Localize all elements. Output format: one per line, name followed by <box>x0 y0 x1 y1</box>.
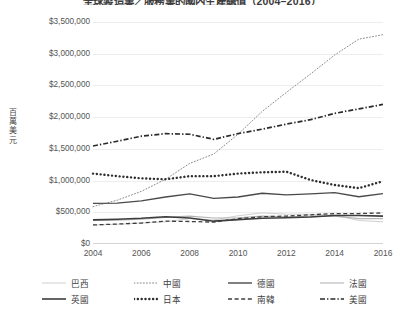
legend-swatch-德國 <box>228 279 252 287</box>
y-tick-label: $3,500,000 <box>14 17 90 26</box>
y-tick-label: $0 <box>14 239 90 248</box>
legend-label: 美國 <box>349 293 367 305</box>
legend-label: 日本 <box>163 293 181 305</box>
y-tick-label: $500,000 <box>14 207 90 216</box>
x-tick-label: 2006 <box>132 248 151 258</box>
x-tick-label: 2010 <box>229 248 248 258</box>
plot-area <box>93 22 383 244</box>
legend-label: 巴西 <box>71 277 89 289</box>
series-line-德國 <box>93 193 383 204</box>
series-line-中國 <box>93 35 383 207</box>
legend-label: 法國 <box>349 277 367 289</box>
legend-swatch-法國 <box>320 279 344 287</box>
x-axis-tick-labels: 2004200620082010201220142016 <box>93 248 383 262</box>
x-tick-label: 2004 <box>84 248 103 258</box>
legend-item-巴西[interactable]: 巴西 <box>42 277 89 289</box>
series-line-日本 <box>93 172 383 188</box>
line-chart: 全球製造業／服務業的國內生產總值（2004–2016） 百萬美元 $0$500,… <box>0 0 404 314</box>
legend-item-法國[interactable]: 法國 <box>320 277 367 289</box>
x-tick-label: 2008 <box>180 248 199 258</box>
x-tick-label: 2014 <box>325 248 344 258</box>
x-tick-label: 2016 <box>374 248 393 258</box>
y-tick-label: $2,500,000 <box>14 80 90 89</box>
legend-item-英國[interactable]: 英國 <box>42 293 89 305</box>
y-axis-tick-labels: $0$500,000$1,000,000$1,500,000$2,000,000… <box>0 0 90 250</box>
legend-swatch-日本 <box>134 295 158 303</box>
legend-item-中國[interactable]: 中國 <box>134 277 181 289</box>
legend-label: 中國 <box>163 277 181 289</box>
chart-legend: 巴西中國德國法國英國日本南韓美國 <box>42 277 394 309</box>
series-line-美國 <box>93 104 383 146</box>
legend-swatch-中國 <box>134 279 158 287</box>
y-tick-label: $2,000,000 <box>14 112 90 121</box>
y-tick-label: $1,000,000 <box>14 176 90 185</box>
legend-item-日本[interactable]: 日本 <box>134 293 181 305</box>
y-tick-label: $3,000,000 <box>14 49 90 58</box>
legend-swatch-英國 <box>42 295 66 303</box>
y-tick-label: $1,500,000 <box>14 144 90 153</box>
legend-swatch-巴西 <box>42 279 66 287</box>
series-layer <box>93 22 383 244</box>
legend-label: 德國 <box>257 277 275 289</box>
legend-swatch-美國 <box>320 295 344 303</box>
legend-item-南韓[interactable]: 南韓 <box>228 293 275 305</box>
legend-swatch-南韓 <box>228 295 252 303</box>
x-tick-label: 2012 <box>277 248 296 258</box>
legend-item-美國[interactable]: 美國 <box>320 293 367 305</box>
legend-label: 英國 <box>71 293 89 305</box>
legend-label: 南韓 <box>257 293 275 305</box>
legend-item-德國[interactable]: 德國 <box>228 277 275 289</box>
